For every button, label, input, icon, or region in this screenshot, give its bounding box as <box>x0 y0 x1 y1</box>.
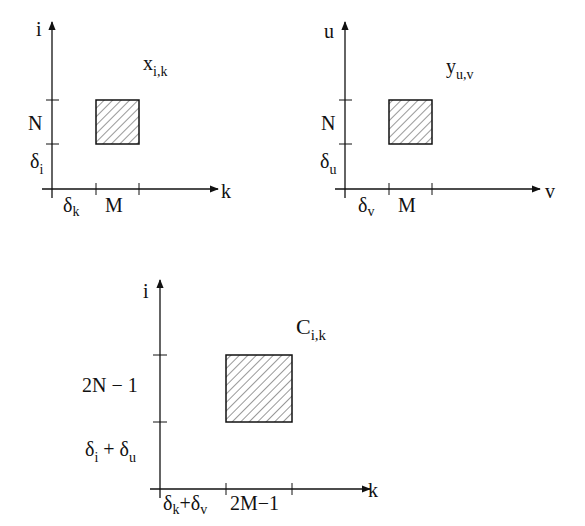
x-label-offset: δk+δv <box>163 492 207 517</box>
hatched-region <box>226 355 292 422</box>
diagram-x: i k xi,k N δi δk M <box>28 18 231 219</box>
x-axis-label: k <box>368 479 378 501</box>
signal-title: xi,k <box>143 52 167 79</box>
y-label-extent: N <box>321 112 335 134</box>
hatched-region <box>96 100 139 144</box>
x-label-extent: 2M−1 <box>230 492 279 514</box>
diagram-y: u v yu,v N δu δv M <box>320 20 555 219</box>
y-label-offset: δi + δu <box>85 438 136 465</box>
x-label-extent: M <box>398 194 416 216</box>
y-label-extent: 2N − 1 <box>82 374 138 396</box>
x-axis-label: v <box>545 180 555 202</box>
x-label-offset: δv <box>358 194 374 219</box>
x-axis-label: k <box>221 180 231 202</box>
y-axis-label: u <box>324 20 334 42</box>
y-label-offset: δi <box>30 150 43 177</box>
x-label-extent: M <box>105 194 123 216</box>
hatched-region <box>389 100 432 144</box>
diagram-c: i k Ci,k 2N − 1 δi + δu δk+δv 2M−1 <box>82 280 378 517</box>
x-label-offset: δk <box>63 194 79 219</box>
y-axis-label: i <box>143 280 149 302</box>
y-label-offset: δu <box>320 150 336 177</box>
signal-title: Ci,k <box>296 314 327 343</box>
signal-title: yu,v <box>446 55 474 82</box>
y-label-extent: N <box>28 112 42 134</box>
diagram-canvas: i k xi,k N δi δk M u v yu,v N δu δv M i … <box>0 0 585 526</box>
y-axis-label: i <box>36 18 42 40</box>
